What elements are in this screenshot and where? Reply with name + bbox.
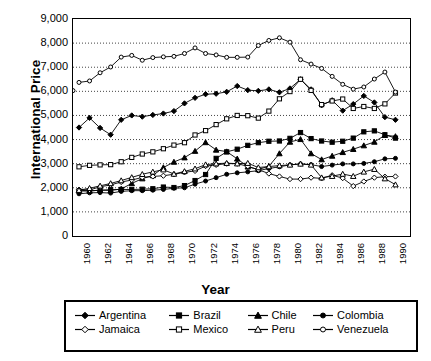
data-point-open-circle xyxy=(77,80,81,84)
data-point-open-triangle xyxy=(192,166,197,171)
data-point-filled-diamond xyxy=(393,117,398,122)
y-tick-label: 1,000 xyxy=(24,206,68,217)
legend-item[interactable]: Colombia xyxy=(312,308,412,322)
data-point-filled-triangle xyxy=(340,150,345,155)
data-point-open-square xyxy=(177,326,182,331)
data-point-filled-circle xyxy=(225,172,229,176)
x-tick-label: 1968 xyxy=(166,243,176,264)
x-tick-label: 1964 xyxy=(124,243,134,264)
y-tick-label: 2,000 xyxy=(24,182,68,193)
data-point-open-circle xyxy=(151,56,155,60)
data-point-filled-circle xyxy=(393,156,397,160)
x-tick-label: 1978 xyxy=(272,243,282,264)
data-point-filled-triangle xyxy=(361,143,366,148)
legend-label: Venezuela xyxy=(337,323,388,335)
data-point-filled-triangle xyxy=(329,153,334,158)
data-point-open-square xyxy=(225,117,229,121)
data-point-filled-circle xyxy=(151,188,155,192)
data-point-filled-square xyxy=(246,143,250,147)
data-point-filled-circle xyxy=(193,182,197,186)
data-point-open-diamond xyxy=(372,175,377,180)
data-point-open-square xyxy=(119,160,123,164)
data-point-open-circle xyxy=(288,40,292,44)
data-point-open-triangle xyxy=(372,166,377,171)
data-point-filled-circle xyxy=(321,313,326,318)
legend-item[interactable]: Venezuela xyxy=(312,322,412,336)
data-point-open-triangle xyxy=(287,162,292,167)
legend-item[interactable]: Peru xyxy=(247,322,313,336)
data-point-open-circle xyxy=(246,55,250,59)
data-point-open-square xyxy=(140,152,144,156)
data-point-open-square xyxy=(182,141,186,145)
data-point-open-circle xyxy=(393,90,397,94)
data-point-open-square xyxy=(130,155,134,159)
legend-marker-filled-triangle xyxy=(247,310,269,321)
data-point-filled-diamond xyxy=(224,89,229,94)
data-point-open-circle xyxy=(362,85,366,89)
data-point-open-triangle xyxy=(308,162,313,167)
legend-marker-filled-square xyxy=(168,310,190,321)
data-point-filled-diamond xyxy=(214,91,219,96)
data-point-open-square xyxy=(214,123,218,127)
legend-label: Jamaica xyxy=(99,323,140,335)
legend-marker-open-triangle xyxy=(247,324,269,335)
data-point-filled-diamond xyxy=(129,113,134,118)
data-point-open-triangle xyxy=(76,187,81,192)
data-point-open-square xyxy=(330,99,334,103)
x-tick-label: 1976 xyxy=(251,243,261,264)
legend-table: ArgentinaBrazilChileColombiaJamaicaMexic… xyxy=(74,308,412,336)
x-tick-label: 1974 xyxy=(230,243,240,264)
data-point-open-triangle xyxy=(150,169,155,174)
y-tick-label: 3,000 xyxy=(24,158,68,169)
data-point-filled-circle xyxy=(140,189,144,193)
legend-item[interactable]: Mexico xyxy=(168,322,246,336)
legend-label: Mexico xyxy=(193,323,228,335)
x-tick-label: 1972 xyxy=(209,243,219,264)
data-point-open-triangle xyxy=(87,186,92,191)
data-point-filled-circle xyxy=(246,170,250,174)
data-point-filled-diamond xyxy=(161,111,166,116)
data-point-open-circle xyxy=(98,71,102,75)
data-point-filled-circle xyxy=(161,187,165,191)
data-point-open-square xyxy=(203,129,207,133)
legend-item[interactable]: Argentina xyxy=(74,308,168,322)
data-point-filled-circle xyxy=(109,191,113,195)
x-tick-label: 1984 xyxy=(335,243,345,264)
x-tick-label: 1962 xyxy=(103,243,113,264)
data-point-open-circle xyxy=(119,55,123,59)
legend-item[interactable]: Brazil xyxy=(168,308,246,322)
data-point-filled-square xyxy=(362,130,366,134)
data-point-filled-circle xyxy=(172,186,176,190)
data-point-filled-triangle xyxy=(298,137,303,142)
data-point-filled-square xyxy=(330,140,334,144)
data-point-open-triangle xyxy=(224,160,229,165)
data-point-open-circle xyxy=(140,58,144,62)
data-point-open-square xyxy=(161,147,165,151)
data-point-open-circle xyxy=(372,77,376,81)
data-point-open-circle xyxy=(161,55,165,59)
y-axis-tick-labels: 9,0008,0007,0006,0005,0004,0003,0002,000… xyxy=(20,0,68,260)
legend-item[interactable]: Chile xyxy=(247,308,313,322)
data-point-filled-diamond xyxy=(277,90,282,95)
data-point-open-circle xyxy=(383,70,387,74)
data-point-open-diamond xyxy=(308,175,313,180)
data-point-filled-triangle xyxy=(203,140,208,145)
data-point-filled-triangle xyxy=(171,159,176,164)
data-point-open-square xyxy=(109,163,113,167)
x-tick-label: 1966 xyxy=(145,243,155,264)
x-axis-title: Year xyxy=(0,282,431,297)
data-point-filled-square xyxy=(256,141,260,145)
data-point-filled-diamond xyxy=(203,92,208,97)
data-point-open-square xyxy=(267,109,271,113)
data-point-filled-triangle xyxy=(351,146,356,151)
chart-legend: ArgentinaBrazilChileColombiaJamaicaMexic… xyxy=(64,300,418,352)
data-point-open-triangle xyxy=(171,171,176,176)
data-point-filled-diamond xyxy=(245,88,250,93)
x-tick-label: 1970 xyxy=(187,243,197,264)
legend-item[interactable]: Jamaica xyxy=(74,322,168,336)
data-point-open-circle xyxy=(256,44,260,48)
data-point-open-triangle xyxy=(245,160,250,165)
data-point-open-square xyxy=(172,143,176,147)
data-point-filled-diamond xyxy=(140,114,145,119)
data-point-open-triangle xyxy=(108,181,113,186)
